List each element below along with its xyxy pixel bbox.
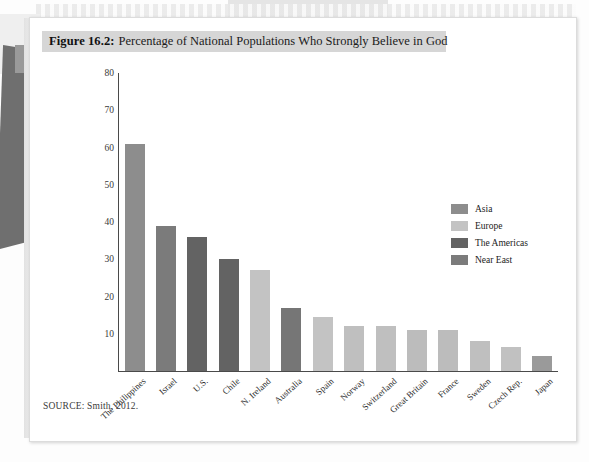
x-tick-label: U.S. — [191, 376, 210, 394]
x-tick-label: Australia — [273, 376, 304, 406]
book-page: Figure 16.2: Percentage of National Popu… — [29, 17, 577, 442]
x-tick-label: Spain — [314, 376, 336, 397]
bar-israel — [156, 226, 176, 371]
x-tick-label: Sweden — [464, 376, 492, 403]
figure-screenshot: Figure 16.2: Percentage of National Popu… — [0, 0, 589, 462]
y-tick-20: 20 — [84, 292, 114, 302]
bar-great-britain — [407, 330, 427, 371]
legend-item: The Americas — [451, 235, 561, 250]
y-tick-80: 80 — [84, 68, 114, 78]
x-tick-label: Israel — [157, 376, 179, 397]
y-tick-10: 10 — [84, 329, 114, 339]
bar-spain — [313, 317, 333, 371]
bar-norway — [344, 326, 364, 371]
legend-label: Near East — [475, 255, 512, 265]
source-note: SOURCE: Smith, 2012. — [43, 401, 138, 411]
legend-swatch — [451, 221, 468, 231]
legend-item: Near East — [451, 252, 561, 267]
x-tick-label: Chile — [220, 376, 241, 396]
legend-item: Europe — [451, 218, 561, 233]
legend-label: Asia — [475, 204, 492, 214]
bar-sweden — [470, 341, 490, 371]
y-tick-30: 30 — [84, 254, 114, 264]
x-axis-tick-labels: The PhilippinesIsraelU.S.ChileN. Ireland… — [119, 373, 558, 453]
y-tick-50: 50 — [84, 180, 114, 190]
legend-swatch — [451, 255, 468, 265]
figure-number: Figure 16.2: — [49, 34, 115, 49]
x-tick-label: Norway — [339, 376, 367, 403]
x-tick-label: The Philippines — [98, 376, 147, 421]
bar-u-s — [187, 237, 207, 371]
legend-label: The Americas — [475, 238, 528, 248]
y-tick-40: 40 — [84, 217, 114, 227]
bar-chile — [219, 259, 239, 371]
figure-caption: Figure 16.2: Percentage of National Popu… — [42, 31, 446, 52]
chart-legend: AsiaEuropeThe AmericasNear East — [451, 201, 561, 269]
x-tick-label: N. Ireland — [239, 376, 273, 408]
legend-swatch — [451, 204, 468, 214]
x-tick-label: France — [436, 376, 461, 400]
bar-france — [438, 330, 458, 371]
legend-label: Europe — [475, 221, 502, 231]
bar-n-ireland — [250, 270, 270, 371]
x-tick-label: Japan — [533, 376, 555, 397]
x-axis-line — [118, 371, 558, 372]
binding-strip — [36, 4, 576, 18]
bar-the-philippines — [125, 144, 145, 371]
bar-australia — [281, 308, 301, 371]
y-tick-60: 60 — [84, 143, 114, 153]
bar-japan — [532, 356, 552, 371]
bar-switzerland — [376, 326, 396, 371]
y-axis-tick-labels: 1020304050607080 — [82, 66, 114, 378]
legend-item: Asia — [451, 201, 561, 216]
figure-title: Percentage of National Populations Who S… — [119, 34, 448, 49]
legend-swatch — [451, 238, 468, 248]
bar-czech-rep — [501, 347, 521, 371]
y-tick-70: 70 — [84, 105, 114, 115]
